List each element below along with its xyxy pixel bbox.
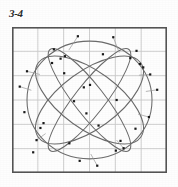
data-point-marker bbox=[149, 73, 151, 75]
data-point-marker bbox=[129, 57, 131, 59]
data-point-marker bbox=[68, 142, 70, 144]
data-point-marker bbox=[26, 70, 28, 72]
data-point-marker bbox=[156, 89, 158, 91]
data-point-marker bbox=[102, 53, 104, 55]
data-point-marker bbox=[32, 151, 34, 153]
figure-container: 3-4 bbox=[0, 0, 178, 187]
data-point-marker bbox=[116, 99, 118, 101]
data-point-marker bbox=[23, 111, 25, 113]
data-point-marker bbox=[63, 72, 65, 74]
data-point-marker bbox=[96, 165, 98, 167]
data-point-marker bbox=[135, 50, 137, 52]
data-point-marker bbox=[123, 147, 125, 149]
scatter-plot-svg bbox=[12, 27, 167, 173]
data-point-marker bbox=[134, 128, 136, 130]
data-point-marker bbox=[83, 86, 85, 88]
plot-area bbox=[12, 27, 167, 173]
data-point-marker bbox=[142, 66, 144, 68]
data-point-marker bbox=[115, 150, 117, 152]
data-point-marker bbox=[119, 140, 121, 142]
data-point-marker bbox=[19, 86, 21, 88]
figure-label: 3-4 bbox=[9, 7, 23, 19]
data-point-marker bbox=[64, 55, 66, 57]
data-point-marker bbox=[139, 63, 141, 65]
data-point-marker bbox=[148, 116, 150, 118]
data-point-marker bbox=[97, 124, 99, 126]
data-point-marker bbox=[112, 36, 114, 38]
data-point-marker bbox=[79, 160, 81, 162]
data-point-marker bbox=[89, 84, 91, 86]
data-point-marker bbox=[35, 139, 37, 141]
data-point-marker bbox=[53, 48, 55, 50]
data-point-marker bbox=[77, 35, 79, 37]
data-point-marker bbox=[51, 62, 53, 64]
data-point-marker bbox=[39, 127, 41, 129]
data-point-marker bbox=[42, 122, 44, 124]
data-point-marker bbox=[85, 112, 87, 114]
data-point-marker bbox=[73, 100, 75, 102]
data-point-marker bbox=[59, 58, 61, 60]
